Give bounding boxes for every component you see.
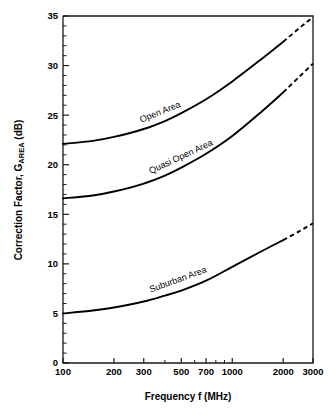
y-tick-label: 35 bbox=[47, 10, 58, 21]
y-tick-label: 25 bbox=[47, 110, 58, 121]
x-tick-label: 3000 bbox=[302, 366, 323, 377]
x-axis-title: Frequency f (MHz) bbox=[145, 391, 232, 402]
y-tick-label: 5 bbox=[53, 308, 59, 319]
x-tick-label: 2000 bbox=[273, 366, 294, 377]
x-tick-label: 100 bbox=[55, 366, 71, 377]
figure-container: 05101520253035 1002003005007001000200030… bbox=[0, 0, 336, 415]
x-tick-label: 700 bbox=[198, 366, 214, 377]
x-tick-label: 200 bbox=[106, 366, 122, 377]
chart-canvas: 05101520253035 1002003005007001000200030… bbox=[0, 0, 336, 415]
x-tick-label: 1000 bbox=[222, 366, 243, 377]
y-tick-label: 30 bbox=[47, 60, 58, 71]
x-tick-label: 500 bbox=[173, 366, 189, 377]
x-tick-label: 300 bbox=[136, 366, 152, 377]
y-tick-label: 10 bbox=[47, 258, 58, 269]
y-tick-label: 20 bbox=[47, 159, 58, 170]
y-tick-label: 15 bbox=[47, 209, 58, 220]
